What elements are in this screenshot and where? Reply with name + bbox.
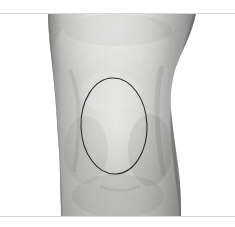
top-rule-line — [0, 13, 235, 14]
clinical-photograph — [0, 0, 235, 227]
bottom-rule-line — [0, 216, 235, 217]
bottom-letterbox-band — [0, 216, 235, 227]
top-letterbox-band — [0, 0, 235, 13]
image-canvas — [0, 0, 235, 227]
